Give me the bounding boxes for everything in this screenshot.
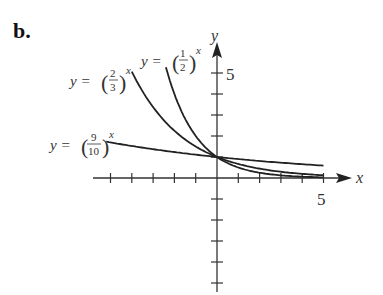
svg-text:x: x bbox=[108, 128, 114, 140]
svg-text:x: x bbox=[125, 64, 131, 76]
svg-text:2: 2 bbox=[110, 67, 116, 79]
curve-label-one-half: y = ( 1 2 ) x bbox=[139, 44, 201, 75]
svg-text:1: 1 bbox=[180, 47, 186, 59]
svg-text:9: 9 bbox=[91, 131, 97, 143]
svg-text:y =: y = bbox=[48, 137, 71, 153]
svg-text:3: 3 bbox=[110, 81, 116, 93]
curve-two-thirds bbox=[132, 72, 324, 176]
curve-nine-tenths bbox=[106, 142, 323, 166]
svg-text:2: 2 bbox=[180, 61, 186, 73]
y-axis-label: y bbox=[209, 27, 219, 45]
curve-label-two-thirds: y = ( 2 3 ) x bbox=[68, 64, 131, 95]
svg-text:y =: y = bbox=[139, 53, 162, 69]
curve-label-nine-tenths: y = ( 9 10 ) x bbox=[48, 128, 114, 159]
x-tick-label-5: 5 bbox=[317, 190, 326, 209]
axes bbox=[93, 52, 340, 292]
svg-text:x: x bbox=[195, 44, 201, 56]
x-axis-label: x bbox=[355, 169, 363, 186]
svg-text:10: 10 bbox=[88, 145, 100, 157]
curve-one-half bbox=[166, 67, 324, 177]
exponential-plot: x y 5 5 y = ( 2 3 ) x y = ( 1 2 ) x y = … bbox=[0, 0, 383, 295]
y-tick-label-5: 5 bbox=[226, 65, 235, 84]
svg-text:y =: y = bbox=[68, 73, 91, 89]
svg-text:(: ( bbox=[101, 70, 108, 95]
curves bbox=[106, 67, 323, 177]
svg-text:(: ( bbox=[172, 50, 179, 75]
